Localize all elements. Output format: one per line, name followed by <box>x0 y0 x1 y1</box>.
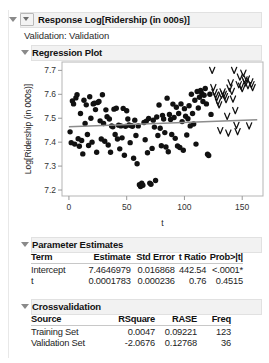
data-point[interactable] <box>206 153 211 158</box>
col-std-error: Std Error <box>131 252 175 264</box>
data-point[interactable] <box>171 115 176 120</box>
data-point[interactable] <box>131 155 136 160</box>
data-point[interactable] <box>71 101 76 106</box>
y-axis-title: Log[Ridership (in 000s)] <box>23 84 33 174</box>
data-point[interactable] <box>173 136 178 141</box>
triangle-down-boxed-icon[interactable] <box>20 13 34 26</box>
data-point[interactable] <box>163 144 168 149</box>
data-point[interactable] <box>74 92 79 97</box>
regression-scatter-plot[interactable]: 7.27.37.47.57.67.7050100150tLog[Ridershi… <box>22 58 266 230</box>
col-freq: Freq <box>197 314 231 326</box>
data-point[interactable] <box>78 111 83 116</box>
col-term: Term <box>31 252 83 264</box>
data-point[interactable] <box>108 150 113 155</box>
data-point[interactable] <box>190 111 195 116</box>
data-point[interactable] <box>132 117 137 122</box>
data-point[interactable] <box>186 103 191 108</box>
data-point[interactable] <box>184 132 189 137</box>
data-point[interactable] <box>156 102 161 107</box>
data-point[interactable] <box>164 95 169 100</box>
data-point[interactable] <box>107 116 112 121</box>
data-point[interactable] <box>142 137 147 142</box>
data-point[interactable] <box>193 141 198 146</box>
data-point[interactable] <box>67 129 72 134</box>
data-point[interactable] <box>185 116 190 121</box>
data-point[interactable] <box>149 146 154 151</box>
data-point[interactable] <box>122 153 127 158</box>
data-point[interactable] <box>84 102 89 107</box>
data-point[interactable] <box>124 108 129 113</box>
data-point[interactable] <box>117 146 122 151</box>
data-point[interactable] <box>203 86 208 91</box>
data-point[interactable] <box>134 161 139 166</box>
parameter-estimates-title: Parameter Estimates <box>32 239 123 250</box>
data-point[interactable] <box>161 116 166 121</box>
cell-rsquare: -2.0676 <box>107 337 155 348</box>
table-header-row: Source RSquare RASE Freq <box>31 314 231 326</box>
data-point[interactable] <box>127 140 132 145</box>
data-point[interactable] <box>114 105 119 110</box>
data-point[interactable] <box>93 107 98 112</box>
data-point[interactable] <box>157 126 162 131</box>
data-point[interactable] <box>176 111 181 116</box>
data-point[interactable] <box>85 132 90 137</box>
data-point[interactable] <box>89 139 94 144</box>
parameter-estimates-table: Term Estimate Std Error t Ratio Prob>|t|… <box>31 252 243 286</box>
parameter-estimates-outline-row[interactable]: Parameter Estimates <box>20 237 123 251</box>
triangle-down-icon[interactable] <box>20 48 29 57</box>
data-point[interactable] <box>115 136 120 141</box>
data-point[interactable] <box>80 151 85 156</box>
data-point[interactable] <box>208 112 213 117</box>
crossvalidation-table: Source RSquare RASE Freq Training Set0.0… <box>31 314 231 348</box>
x-tick-label: 50 <box>122 202 132 212</box>
triangle-down-icon[interactable] <box>8 15 17 24</box>
triangle-down-icon[interactable] <box>20 240 29 249</box>
data-point[interactable] <box>155 133 160 138</box>
regression-plot-outline-row[interactable]: Regression Plot <box>20 45 102 59</box>
data-point[interactable] <box>146 116 151 121</box>
data-point[interactable] <box>196 105 201 110</box>
data-point[interactable] <box>204 101 209 106</box>
crossvalidation-outline-row[interactable]: Crossvalidation <box>20 299 101 313</box>
data-point[interactable] <box>100 92 105 97</box>
data-point[interactable] <box>77 144 82 149</box>
data-point[interactable] <box>189 92 194 97</box>
data-point[interactable] <box>87 94 92 99</box>
data-point[interactable] <box>106 142 111 147</box>
data-point[interactable] <box>96 99 101 104</box>
table-row: t0.00017830.0002360.760.4515 <box>31 275 243 286</box>
data-point[interactable] <box>103 107 108 112</box>
data-point[interactable] <box>79 138 84 143</box>
cell-freq: 36 <box>197 337 231 348</box>
data-point[interactable] <box>179 119 184 124</box>
data-point[interactable] <box>140 183 145 188</box>
data-point[interactable] <box>159 143 164 148</box>
data-point[interactable] <box>192 98 197 103</box>
x-axis-title: t <box>161 218 164 228</box>
data-point[interactable] <box>133 133 138 138</box>
data-point[interactable] <box>181 148 186 153</box>
y-tick-label: 7.2 <box>44 185 56 195</box>
data-point[interactable] <box>174 105 179 110</box>
data-point[interactable] <box>148 182 153 187</box>
data-point[interactable] <box>166 149 171 154</box>
data-point[interactable] <box>119 135 124 140</box>
data-point[interactable] <box>201 93 206 98</box>
data-point[interactable] <box>207 92 212 97</box>
data-point[interactable] <box>162 130 167 135</box>
data-point[interactable] <box>182 106 187 111</box>
response-outline-row[interactable]: Response Log[Ridership (in 000s)] <box>8 12 190 26</box>
data-point[interactable] <box>125 116 130 121</box>
data-point[interactable] <box>72 141 77 146</box>
data-point[interactable] <box>94 150 99 155</box>
data-point[interactable] <box>152 124 157 129</box>
col-estimate: Estimate <box>83 252 131 264</box>
data-point[interactable] <box>153 178 158 183</box>
data-point[interactable] <box>167 112 172 117</box>
cell-source: Training Set <box>31 326 107 338</box>
data-point[interactable] <box>178 101 183 106</box>
data-point[interactable] <box>88 116 93 121</box>
triangle-down-icon[interactable] <box>20 302 29 311</box>
data-point[interactable] <box>154 114 159 119</box>
data-point[interactable] <box>145 150 150 155</box>
